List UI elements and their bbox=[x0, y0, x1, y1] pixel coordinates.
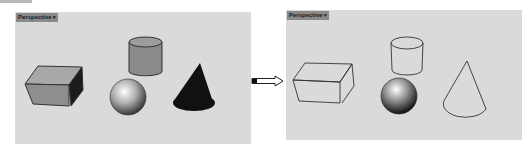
cone-shaded bbox=[173, 63, 215, 111]
shaded-scene bbox=[15, 12, 251, 144]
viewport-label-dropdown[interactable]: Perspective▾ bbox=[287, 11, 329, 20]
caret-down-icon: ▾ bbox=[53, 14, 56, 20]
viewport-label: Perspective bbox=[289, 12, 323, 18]
viewport-shaded[interactable]: Perspective▾ bbox=[15, 12, 251, 144]
wireframe-scene bbox=[286, 10, 522, 140]
sphere-shaded-right bbox=[381, 78, 417, 114]
viewport-label: Perspective bbox=[18, 14, 52, 20]
viewport-label-dropdown[interactable]: Perspective▾ bbox=[16, 13, 58, 22]
viewport-wireframe[interactable]: Perspective▾ bbox=[286, 10, 522, 140]
box-shaded bbox=[25, 66, 83, 106]
caret-down-icon: ▾ bbox=[324, 12, 327, 18]
cylinder-wireframe bbox=[391, 37, 423, 75]
top-tab bbox=[0, 0, 32, 3]
cylinder-shaded bbox=[129, 37, 162, 76]
cone-wireframe bbox=[443, 61, 486, 117]
sphere-shaded bbox=[110, 79, 146, 115]
box-wireframe bbox=[293, 63, 354, 103]
arrow-right-icon bbox=[251, 75, 285, 87]
